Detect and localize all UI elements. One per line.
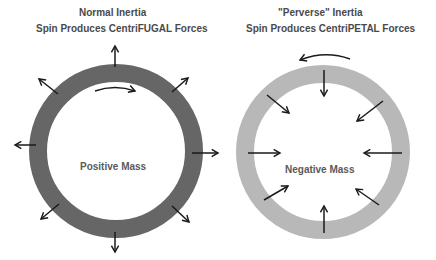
positive-mass-ring bbox=[38, 73, 194, 229]
inertia-diagram bbox=[0, 0, 436, 260]
negative-mass-label: Negative Mass bbox=[285, 164, 354, 175]
force-arrow-up-right-icon bbox=[172, 78, 188, 92]
spin-arrow-counterclockwise-icon bbox=[300, 55, 350, 60]
force-arrow-up-left-icon bbox=[39, 79, 58, 94]
spin-arrow-clockwise-icon bbox=[95, 88, 135, 92]
negative-mass-ring bbox=[245, 74, 401, 230]
force-arrow-in-bottom-left-icon bbox=[264, 186, 288, 200]
positive-mass-label: Positive Mass bbox=[80, 161, 146, 172]
